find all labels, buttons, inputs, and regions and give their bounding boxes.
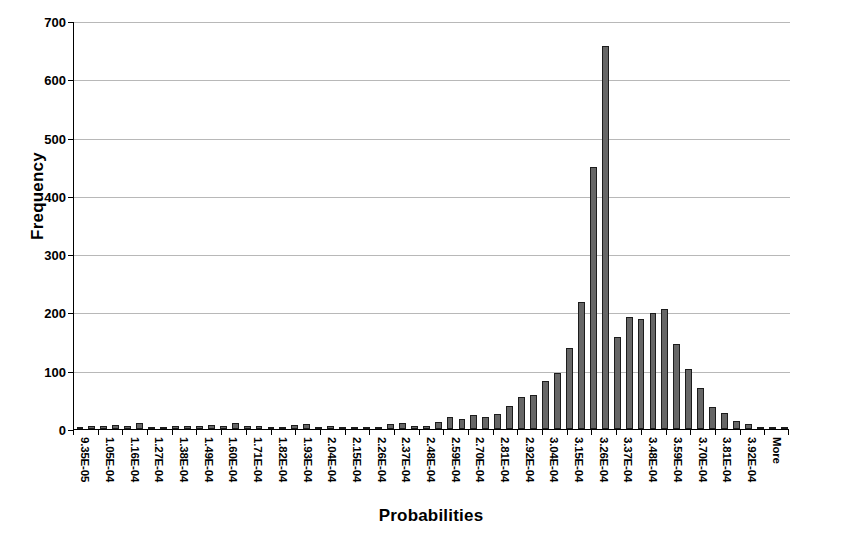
x-tick-slot [345, 430, 370, 436]
x-tick-mark [419, 430, 420, 435]
x-label-slot: 2.15E-04 [345, 437, 370, 505]
x-tick-label: 3.92E-04 [746, 437, 758, 482]
histogram-bar [256, 426, 263, 429]
x-label-slot: 3.48E-04 [641, 437, 666, 505]
histogram-bar [542, 381, 549, 429]
x-tick-label: 1.93E-04 [302, 437, 314, 482]
x-tick-label: 2.37E-04 [400, 437, 412, 482]
bar-slot [146, 22, 158, 429]
x-tick-label: 3.70E-04 [697, 437, 709, 482]
x-tick-mark [196, 430, 197, 435]
histogram-bar [435, 422, 442, 429]
bar-slot [122, 22, 134, 429]
x-tick-slot [616, 430, 641, 436]
x-label-slot: 3.04E-04 [542, 437, 567, 505]
x-tick-mark [740, 430, 741, 435]
histogram-bar [721, 413, 728, 429]
x-tick-slot [147, 430, 172, 436]
x-label-slot: More [764, 437, 789, 505]
bar-slot [611, 22, 623, 429]
x-label-slot: 1.38E-04 [172, 437, 197, 505]
x-tick-slot [295, 430, 320, 436]
histogram-bar [506, 406, 513, 429]
bar-slot [325, 22, 337, 429]
x-tick-label: 1.49E-04 [203, 437, 215, 482]
x-tick-mark [567, 430, 568, 435]
y-tick-label: 100 [16, 364, 66, 379]
bar-slot [540, 22, 552, 429]
x-tick-label: 9.35E-05 [79, 437, 91, 482]
x-tick-mark [764, 430, 765, 435]
histogram-bar [220, 426, 227, 429]
x-tick-label: 1.82E-04 [277, 437, 289, 482]
bar-slot [623, 22, 635, 429]
x-tick-mark [468, 430, 469, 435]
x-tick-mark [369, 430, 370, 435]
x-tick-label: 3.59E-04 [672, 437, 684, 482]
x-label-slot: 2.92E-04 [517, 437, 542, 505]
histogram-bar [518, 397, 525, 429]
bar-slot [778, 22, 790, 429]
histogram-bar [160, 427, 167, 429]
x-label-slot: 3.15E-04 [567, 437, 592, 505]
histogram-bar [196, 426, 203, 429]
histogram-bar [638, 319, 645, 429]
x-tick-label: 3.15E-04 [573, 437, 585, 482]
x-tick-label: 1.27E-04 [153, 437, 165, 482]
histogram-bar [661, 309, 668, 429]
histogram-bar [685, 369, 692, 429]
x-label-slot: 1.82E-04 [271, 437, 296, 505]
bar-slot [743, 22, 755, 429]
x-tick-mark [345, 430, 346, 435]
x-tick-label: 3.48E-04 [647, 437, 659, 482]
x-label-slot: 1.16E-04 [122, 437, 147, 505]
bar-slot [754, 22, 766, 429]
x-tick-slot [122, 430, 147, 436]
x-tick-mark [493, 430, 494, 435]
y-tick-label: 200 [16, 306, 66, 321]
x-tick-slot [394, 430, 419, 436]
bar-slot [695, 22, 707, 429]
x-tick-label: 2.15E-04 [351, 437, 363, 482]
histogram-bar [172, 426, 179, 429]
histogram-bar [650, 313, 657, 429]
x-tick-slot [641, 430, 666, 436]
x-label-slot: 1.05E-04 [98, 437, 123, 505]
x-label-slot: 1.71E-04 [246, 437, 271, 505]
histogram-bar [733, 421, 740, 429]
y-tick-label: 300 [16, 248, 66, 263]
x-tick-slot [419, 430, 444, 436]
bar-slot [766, 22, 778, 429]
x-tick-mark [517, 430, 518, 435]
histogram-bar [602, 46, 609, 429]
x-axis-title: Probabilities [73, 506, 789, 526]
y-tick-label: 500 [16, 131, 66, 146]
histogram-bar [268, 427, 275, 429]
x-tick-slot [690, 430, 715, 436]
histogram-bar [351, 427, 358, 429]
histogram-bar [470, 415, 477, 429]
y-tick-label: 400 [16, 189, 66, 204]
bar-slot [671, 22, 683, 429]
histogram-bar [100, 426, 107, 429]
x-label-slot: 3.81E-04 [715, 437, 740, 505]
x-label-slot: 1.93E-04 [295, 437, 320, 505]
x-tick-mark [616, 430, 617, 435]
y-axis-tick-labels: 0100200300400500600700 [16, 22, 66, 430]
x-tick-slot [517, 430, 542, 436]
bar-slot [432, 22, 444, 429]
x-tick-slot [493, 430, 518, 436]
bar-slot [217, 22, 229, 429]
histogram-bar [148, 427, 155, 429]
histogram-bar [327, 426, 334, 429]
x-label-slot: 3.37E-04 [616, 437, 641, 505]
x-tick-label: 2.59E-04 [450, 437, 462, 482]
histogram-bar [112, 425, 119, 429]
x-axis-tick-labels: 9.35E-051.05E-041.16E-041.27E-041.38E-04… [73, 437, 789, 505]
x-tick-mark [172, 430, 173, 435]
histogram-bar [136, 423, 143, 429]
histogram-bar [697, 388, 704, 429]
x-tick-mark [246, 430, 247, 435]
x-label-slot: 2.04E-04 [320, 437, 345, 505]
x-tick-slot [443, 430, 468, 436]
